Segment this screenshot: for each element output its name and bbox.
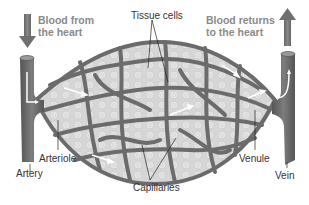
blood-from-line-2: the heart	[38, 26, 94, 38]
arteriole-label: Arteriole	[39, 153, 76, 164]
artery-label: Artery	[16, 168, 43, 179]
blood-returns-label: Blood returns to the heart	[206, 14, 275, 38]
tissue-cells-label: Tissue cells	[131, 10, 183, 21]
arrow-down-icon	[19, 14, 36, 48]
capillaries-label: Capillaries	[133, 182, 180, 193]
blood-returns-line-1: Blood returns	[206, 14, 275, 26]
arrow-up-icon	[279, 8, 296, 46]
vein-vessel	[272, 52, 295, 166]
artery-vessel	[20, 56, 44, 163]
blood-from-line-1: Blood from	[38, 14, 94, 26]
blood-returns-line-2: to the heart	[206, 26, 275, 38]
blood-from-heart-label: Blood from the heart	[38, 14, 94, 38]
vein-label: Vein	[275, 170, 294, 181]
venule-label: Venule	[239, 153, 270, 164]
